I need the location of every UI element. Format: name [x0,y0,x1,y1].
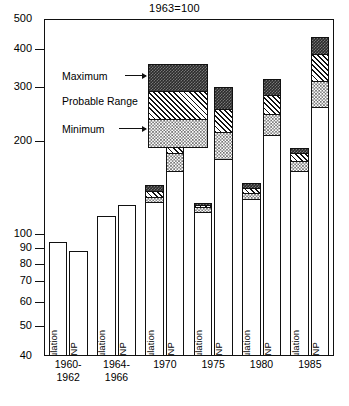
bar-segment-base [70,252,87,356]
bar-segment-base [215,160,232,356]
bar-segment-base [291,172,308,356]
y-axis-tick-mark [35,49,44,50]
bar-segment-base [312,108,329,356]
chart-root: 1963=100 405060708090100200300400500 Pop… [0,0,349,406]
bar-population-3[interactable]: Population [194,203,213,356]
bar-gnp-1[interactable]: GNP [118,205,137,356]
bar-segment-minimum [215,133,232,160]
bar-population-4[interactable]: Population [242,183,261,356]
bar-segment-base [167,172,184,356]
bar-segment-minimum [312,82,329,109]
x-axis: 1960-19621964-19661970197519801985 [44,358,334,404]
bar-segment-minimum [167,154,184,172]
bar-gnp-4[interactable]: GNP [263,79,282,356]
bar-gnp-3[interactable]: GNP [214,87,233,356]
x-axis-group-label-3: 1975 [189,358,237,371]
bar-gnp-5[interactable]: GNP [311,37,330,356]
x-axis-group-label-5: 1985 [286,358,334,371]
bar-label-gnp-4: GNP [263,342,272,356]
x-axis-label-line: 1966 [92,371,140,384]
y-axis-tick-label: 40 [20,349,32,361]
bar-label-gnp-3: GNP [214,342,223,356]
bar-population-5[interactable]: Population [290,148,309,356]
y-axis-tick-label: 100 [14,227,32,239]
bar-population-0[interactable]: Population [49,242,68,356]
bar-label-gnp-5: GNP [311,342,320,356]
y-axis-tick-mark [35,141,44,142]
y-axis-tick-mark [35,302,44,303]
bar-label-population-4: Population [242,330,251,356]
bar-label-population-0: Population [49,330,58,356]
x-axis-label-line: 1985 [286,358,334,371]
bar-segment-probable-range [215,110,232,133]
x-axis-label-line: 1962 [44,371,92,384]
y-axis-tick-mark [35,326,44,327]
chart-title: 1963=100 [0,2,349,14]
x-axis-label-line: 1980 [237,358,285,371]
y-axis-tick-label: 90 [20,241,32,253]
y-axis-tick-label: 80 [20,257,32,269]
bar-segment-base [264,136,281,356]
bars-layer: PopulationGNPPopulationGNPPopulationGNPP… [44,19,334,356]
x-axis-group-label-4: 1980 [237,358,285,371]
y-axis-tick-label: 50 [20,319,32,331]
bar-segment-base [119,206,136,356]
y-axis-tick-label: 60 [20,295,32,307]
y-axis-tick-label: 200 [14,134,32,146]
x-axis-group-label-1: 1964-1966 [92,358,140,384]
y-axis-tick-label: 70 [20,274,32,286]
bar-segment-maximum [215,88,232,110]
bar-segment-maximum [264,80,281,96]
x-axis-label-line: 1970 [141,358,189,371]
y-axis-tick-label: 400 [14,42,32,54]
bar-gnp-0[interactable]: GNP [69,251,88,356]
x-axis-label-line: 1960- [44,358,92,371]
y-axis: 405060708090100200300400500 [0,0,44,406]
y-axis-tick-mark [35,264,44,265]
y-axis-tick-mark [35,281,44,282]
x-axis-group-label-0: 1960-1962 [44,358,92,384]
y-axis-tick-label: 500 [14,12,32,24]
bar-label-population-5: Population [290,330,299,356]
bar-label-population-1: Population [97,330,106,356]
bar-segment-probable-range [264,96,281,115]
y-axis-tick-mark [35,234,44,235]
y-axis-tick-mark [35,248,44,249]
y-axis-tick-label: 300 [14,80,32,92]
x-axis-label-line: 1964- [92,358,140,371]
bar-segment-maximum [167,128,184,141]
bar-label-gnp-0: GNP [69,342,78,356]
bar-label-gnp-2: GNP [166,342,175,356]
bar-gnp-2[interactable]: GNP [166,127,185,356]
bar-segment-probable-range [291,154,308,162]
bar-population-2[interactable]: Population [145,185,164,356]
x-axis-group-label-2: 1970 [141,358,189,371]
bar-segment-maximum [312,38,329,55]
x-axis-label-line: 1975 [189,358,237,371]
bar-label-gnp-1: GNP [118,342,127,356]
bar-segment-probable-range [167,142,184,155]
bar-segment-minimum [264,115,281,136]
bar-label-population-2: Population [145,330,154,356]
y-axis-tick-mark [35,87,44,88]
bar-population-1[interactable]: Population [97,216,116,356]
bar-segment-minimum [291,162,308,172]
bar-label-population-3: Population [194,330,203,356]
bar-segment-probable-range [312,55,329,82]
